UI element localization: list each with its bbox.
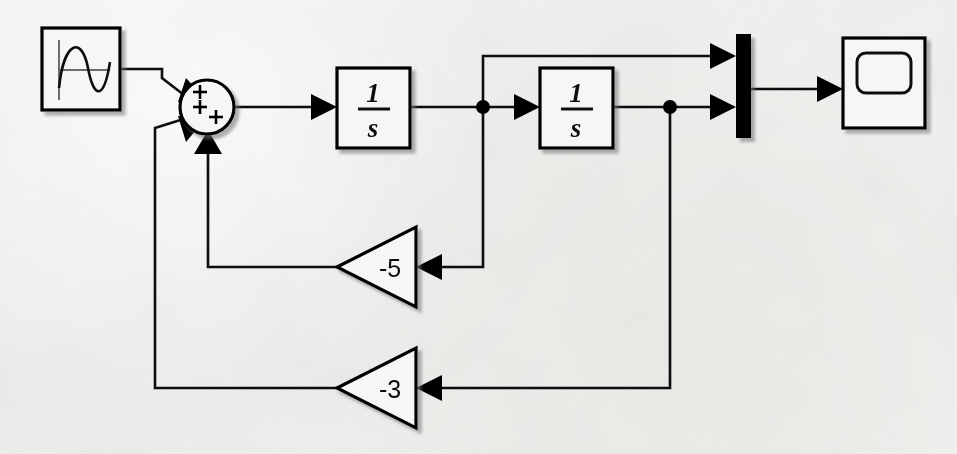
gain-minus-3-label: -3 <box>379 375 401 403</box>
signal-source-to-sum[interactable] <box>120 69 184 95</box>
block-diagram-svg: 1 s 1 s -5 -3 <box>0 0 957 454</box>
integrator-2-numerator: 1 <box>569 78 583 108</box>
gain-minus-5-label: -5 <box>379 254 401 282</box>
gain-minus-3-body <box>337 348 416 428</box>
arrowhead-into-scope <box>817 76 843 102</box>
integrator-1-numerator: 1 <box>366 78 380 108</box>
signal-branch-to-gain-minus-5[interactable] <box>424 107 483 267</box>
signal-gain-minus-3-to-sum[interactable] <box>155 119 337 388</box>
integrator-1-denominator: s <box>367 113 379 143</box>
diagram-canvas: 1 s 1 s -5 -3 <box>0 0 957 454</box>
signal-gain-minus-5-to-sum[interactable] <box>208 148 337 267</box>
junction-after-integrator-2 <box>663 100 677 114</box>
mux-block[interactable] <box>736 34 751 138</box>
junction-after-integrator-1 <box>476 100 490 114</box>
arrowhead-into-integrator-2 <box>514 94 540 120</box>
gain-block-minus-5[interactable] <box>337 227 416 307</box>
scope-screen-icon <box>857 53 911 93</box>
gain-minus-5-body <box>337 227 416 307</box>
integrator-2-denominator: s <box>570 113 582 143</box>
arrowhead-into-mux-top <box>710 43 736 69</box>
arrowhead-into-integrator-1 <box>311 94 337 120</box>
arrowhead-into-gain-minus-3 <box>416 375 442 401</box>
mux-bar-body <box>736 34 751 138</box>
arrowhead-into-gain-minus-5 <box>416 254 442 280</box>
gain-block-minus-3[interactable] <box>337 348 416 428</box>
arrowhead-into-mux-bottom <box>710 94 736 120</box>
